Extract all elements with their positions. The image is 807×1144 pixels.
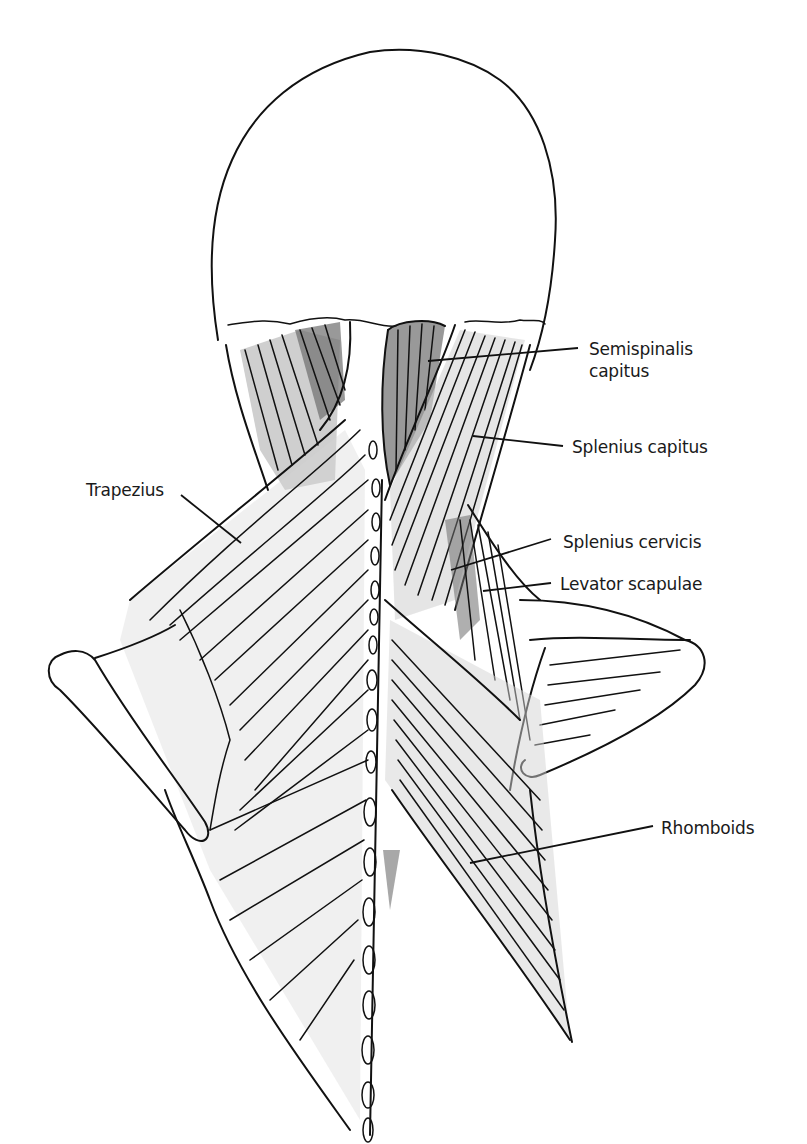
label-semispinalis-line2: capitus bbox=[589, 360, 693, 382]
label-levator-scapulae: Levator scapulae bbox=[560, 573, 702, 595]
spine bbox=[362, 441, 382, 1142]
trapezius-muscle bbox=[120, 420, 368, 1130]
label-semispinalis-capitus: Semispinalis capitus bbox=[589, 338, 693, 382]
label-splenius-capitus: Splenius capitus bbox=[572, 436, 708, 458]
anatomy-illustration bbox=[0, 0, 807, 1144]
label-trapezius: Trapezius bbox=[86, 479, 164, 501]
leader-levator-scapulae bbox=[483, 583, 551, 591]
label-splenius-cervicis: Splenius cervicis bbox=[563, 531, 701, 553]
label-semispinalis-line1: Semispinalis bbox=[589, 338, 693, 360]
label-rhomboids: Rhomboids bbox=[661, 817, 754, 839]
leader-trapezius bbox=[181, 495, 241, 543]
anatomy-figure: Semispinalis capitus Splenius capitus Tr… bbox=[0, 0, 807, 1144]
head-outline bbox=[212, 50, 556, 370]
rhomboids-muscle bbox=[383, 600, 572, 1042]
